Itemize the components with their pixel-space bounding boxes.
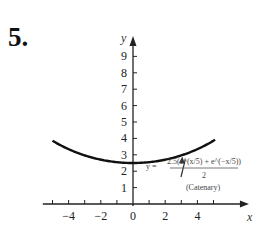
equation-caption: (Catenary) [186,183,221,192]
x-tick-label: −2 [94,209,107,223]
axes [43,36,249,208]
y-tick-label: 6 [121,99,127,113]
x-axis-label: x [246,210,253,224]
y-axis-arrow [130,36,137,46]
equation-denominator: 2 [202,171,206,180]
y-tick-label: 9 [121,49,127,63]
equation-lhs: y = [146,162,157,171]
x-tick-label: 4 [194,209,200,223]
x-tick-label: −4 [62,209,75,223]
y-tick-label: 3 [121,148,127,162]
x-tick-label: 2 [162,209,168,223]
y-tick-label: 2 [121,164,127,178]
x-tick-label: 0 [130,209,136,223]
y-tick-label: 1 [121,181,127,195]
x-axis-arrow [240,201,249,208]
y-tick-label: 7 [121,82,127,96]
y-tick-label: 8 [121,66,127,80]
y-tick-label: 4 [121,131,127,145]
y-axis-label: y [120,31,127,45]
catenary-chart: xy−4−2024123456789 y = 2.5(e^(x/5) + e^(… [0,0,270,234]
equation-numerator: 2.5(e^(x/5) + e^(−x/5)) [167,157,241,166]
tick-labels: xy−4−2024123456789 [62,31,253,224]
y-tick-label: 5 [121,115,127,129]
